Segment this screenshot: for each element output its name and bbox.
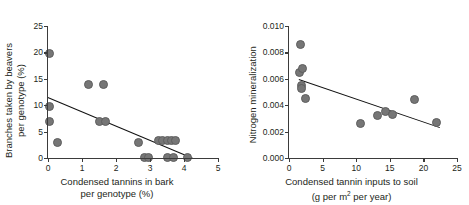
x-tick-label: 0	[46, 164, 51, 173]
y-tick	[285, 79, 289, 80]
y-tick-label: 10	[0, 101, 43, 110]
x-tick-label: 5	[216, 164, 221, 173]
y-tick-label: 20	[0, 48, 43, 57]
x-tick	[356, 158, 357, 162]
y-tick-label: 5	[0, 127, 43, 136]
y-tick	[44, 26, 48, 27]
data-point	[296, 40, 305, 49]
y-tick	[44, 132, 48, 133]
y-tick-label: 0.006	[241, 74, 284, 83]
x-tick-label: 4	[182, 164, 187, 173]
right-plot-area	[289, 26, 457, 158]
y-tick-label: 0	[0, 154, 43, 163]
data-point	[356, 119, 365, 128]
y-tick	[285, 132, 289, 133]
y-tick-label: 0.002	[241, 127, 284, 136]
x-tick-label: 15	[385, 164, 394, 173]
x-tick	[218, 158, 219, 162]
left-x-axis	[47, 158, 219, 159]
figure: Branches taken by beavers per genotype (…	[0, 0, 469, 205]
y-tick-label: 25	[0, 22, 43, 31]
y-tick	[285, 52, 289, 53]
x-tick	[48, 158, 49, 162]
x-tick-label: 20	[419, 164, 428, 173]
data-point	[171, 136, 180, 145]
data-point	[297, 84, 306, 93]
x-tick-label: 2	[114, 164, 119, 173]
right-x-axis	[288, 158, 458, 159]
data-point	[388, 110, 397, 119]
y-tick-label: 0.010	[241, 22, 284, 31]
data-point	[134, 138, 143, 147]
x-tick	[116, 158, 117, 162]
left-y-axis	[47, 26, 48, 159]
data-point	[298, 64, 307, 73]
data-point	[432, 118, 441, 127]
x-tick	[82, 158, 83, 162]
y-tick-label: 0.000	[241, 154, 284, 163]
right-x-axis-label: Condensed tannin inputs to soil (g per m…	[234, 176, 469, 202]
y-tick	[285, 105, 289, 106]
x-tick	[457, 158, 458, 162]
right-y-axis	[288, 26, 289, 159]
data-point	[53, 138, 62, 147]
x-tick-label: 3	[148, 164, 153, 173]
left-plot-area	[48, 26, 218, 158]
x-tick-label: 5	[320, 164, 325, 173]
data-point	[84, 80, 93, 89]
y-tick	[285, 158, 289, 159]
chart-panel-left: Branches taken by beavers per genotype (…	[0, 0, 234, 205]
data-point	[410, 95, 419, 104]
x-tick-label: 0	[287, 164, 292, 173]
x-tick	[289, 158, 290, 162]
x-tick	[390, 158, 391, 162]
right-x-axis-label-units: (g per m2 per year)	[312, 191, 392, 202]
y-tick	[44, 79, 48, 80]
trendline	[48, 97, 193, 159]
x-tick-label: 25	[452, 164, 461, 173]
y-tick-label: 0.004	[241, 101, 284, 110]
x-tick-label: 1	[80, 164, 85, 173]
chart-panel-right: Nitrogen mineralization 05101520250.0000…	[234, 0, 469, 205]
y-tick-label: 15	[0, 74, 43, 83]
x-tick-label: 10	[351, 164, 360, 173]
data-point	[101, 117, 110, 126]
y-tick	[44, 105, 48, 106]
y-tick	[44, 52, 48, 53]
x-tick	[150, 158, 151, 162]
x-tick	[184, 158, 185, 162]
x-tick	[423, 158, 424, 162]
y-tick-label: 0.008	[241, 48, 284, 57]
trendline	[299, 79, 440, 128]
data-point	[301, 94, 310, 103]
y-tick	[44, 158, 48, 159]
left-x-axis-label: Condensed tannins in bark per genotype (…	[0, 176, 234, 199]
right-y-axis-label: Nitrogen mineralization	[247, 25, 259, 165]
x-tick	[323, 158, 324, 162]
data-point	[99, 80, 108, 89]
y-tick	[285, 26, 289, 27]
